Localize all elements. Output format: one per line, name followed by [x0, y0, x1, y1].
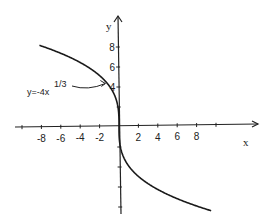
function-curve — [39, 45, 211, 210]
axes: x y — [15, 16, 258, 214]
x-tick-label: -2 — [95, 132, 104, 143]
curve-annotation: y=-4x 1/3 — [27, 79, 105, 97]
function-graph: x y -8-6-4-22468468 y=-4x 1/3 — [0, 0, 274, 224]
x-tick-label: 8 — [194, 131, 200, 142]
annotation-label: y=-4x — [27, 87, 50, 97]
y-tick-label: 6 — [110, 62, 116, 73]
y-tick-label: 8 — [109, 42, 115, 53]
x-tick-label: 6 — [174, 131, 180, 142]
x-tick-label: -4 — [76, 132, 85, 143]
x-tick-label: 2 — [136, 132, 142, 143]
y-axis-title: y — [106, 20, 112, 32]
x-tick-label: -6 — [56, 133, 65, 144]
x-tick-label: -8 — [37, 133, 46, 144]
x-axis — [15, 124, 258, 127]
annotation-exponent: 1/3 — [54, 79, 67, 89]
x-tick-label: 4 — [155, 132, 161, 143]
x-axis-title: x — [243, 136, 249, 148]
annotation-arrow-icon — [72, 81, 105, 89]
